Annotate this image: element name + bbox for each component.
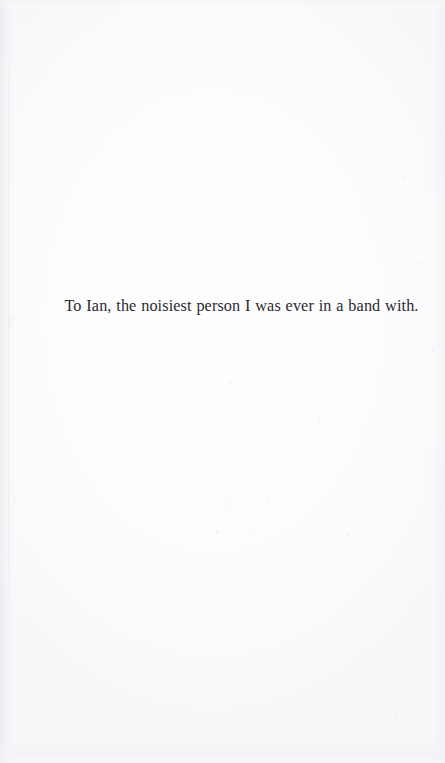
scan-speck bbox=[318, 418, 320, 420]
gutter-crease-line bbox=[8, 26, 9, 726]
top-edge-scan-noise bbox=[0, 0, 445, 10]
scan-speck bbox=[347, 534, 349, 536]
scan-speck bbox=[404, 176, 406, 178]
bottom-edge-scan-smudge bbox=[0, 740, 445, 763]
paper-tone-overlay bbox=[0, 0, 445, 763]
scan-speck bbox=[432, 349, 434, 351]
scan-speck bbox=[216, 531, 218, 533]
right-edge-shading bbox=[419, 0, 445, 763]
scan-speck bbox=[128, 648, 129, 649]
dedication-text: To Ian, the noisiest person I was ever i… bbox=[26, 295, 418, 317]
left-gutter-shading bbox=[0, 0, 22, 763]
scan-speck bbox=[395, 712, 397, 714]
scan-speck bbox=[7, 556, 9, 558]
scan-speck bbox=[301, 679, 302, 680]
scan-speck bbox=[186, 459, 187, 460]
scan-speck bbox=[14, 498, 16, 500]
scan-speck bbox=[226, 503, 228, 505]
scan-speck bbox=[253, 533, 254, 534]
scan-speck bbox=[229, 381, 231, 383]
scan-speck bbox=[9, 322, 11, 324]
scanned-page: To Ian, the noisiest person I was ever i… bbox=[0, 0, 445, 763]
scan-speck bbox=[418, 262, 420, 264]
dedication-block: To Ian, the noisiest person I was ever i… bbox=[0, 295, 445, 317]
scan-speck bbox=[281, 498, 282, 499]
scan-speck bbox=[12, 318, 14, 320]
scan-speck bbox=[266, 500, 268, 502]
scan-speck bbox=[11, 604, 12, 605]
